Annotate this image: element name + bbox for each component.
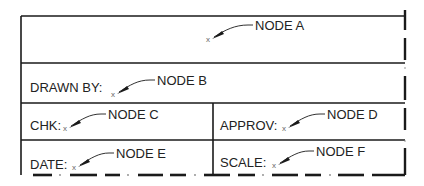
arrowhead-node-a [212,31,224,39]
field-label-scale: SCALE: [220,156,266,170]
node-b-label: NODE B [157,74,207,88]
arrowhead-node-e [78,159,90,167]
field-label-drawn-by: DRAWN BY: [30,81,102,95]
arrowhead-node-f [278,157,290,165]
x-marker-node-a: x [206,33,210,47]
x-marker-node-b: x [111,88,115,102]
x-marker-node-d: x [282,122,286,136]
field-label-chk: CHK: [30,119,61,133]
node-d-label: NODE D [327,108,378,122]
field-label-date: DATE: [30,158,67,172]
field-label-approv: APPROV: [220,119,277,133]
node-f-label: NODE F [316,145,365,159]
x-marker-node-f: x [272,159,276,173]
arrowhead-node-d [288,120,300,128]
arrowhead-node-c [69,120,81,128]
node-c-label: NODE C [108,108,159,122]
x-marker-node-e: x [72,161,76,175]
x-marker-node-c: x [63,122,67,136]
node-a-label: NODE A [255,19,304,33]
node-e-label: NODE E [116,147,166,161]
arrowhead-node-b [117,86,129,94]
